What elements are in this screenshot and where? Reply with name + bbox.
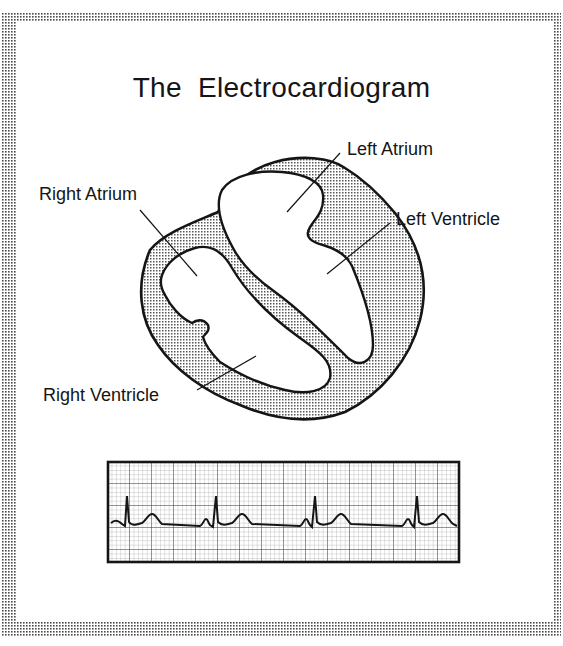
label-right-atrium: Right Atrium bbox=[39, 184, 137, 205]
label-left-ventricle: Left Ventricle bbox=[396, 209, 500, 230]
label-right-ventricle: Right Ventricle bbox=[43, 385, 159, 406]
label-left-atrium: Left Atrium bbox=[347, 139, 433, 160]
ecg-strip bbox=[108, 462, 459, 562]
heart-diagram bbox=[0, 0, 563, 646]
